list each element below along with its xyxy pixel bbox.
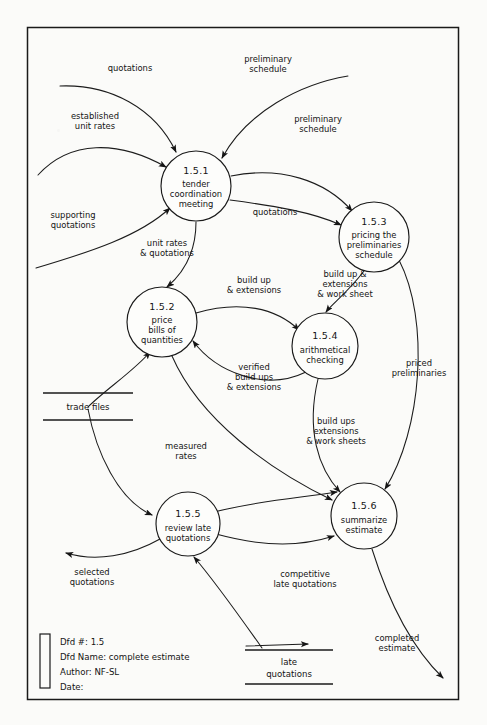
process-id: 1.5.3 (361, 216, 387, 227)
process-name-line2: checking (306, 355, 343, 365)
flow-label-line2: quotations (70, 577, 115, 587)
data-store-trade-files[interactable]: trade files (43, 393, 133, 420)
flow-label-line1: unit rates (147, 238, 187, 248)
process-name-line1: tender (182, 179, 210, 189)
flow-label-selected-quotations: selected quotations (70, 567, 115, 587)
flow-line-completed-estimate (372, 549, 443, 678)
title-block-line-3: Author: NF-SL (60, 667, 119, 677)
flow-line-trade-files-to-152 (88, 352, 150, 407)
flow-label-line2: & extensions (227, 285, 281, 295)
flow-line-preliminary-schedule-to-153 (231, 173, 352, 211)
data-store-late-quotations[interactable]: late quotations (245, 650, 333, 684)
flow-label-priced-preliminaries: priced preliminaries (392, 358, 447, 378)
title-block-marker (40, 634, 50, 688)
flow-line-selected-quotations (66, 539, 160, 557)
flow-label-line1: measured (165, 441, 207, 451)
flow-label-line3: & work sheets (306, 436, 366, 446)
flow-label-line1: build ups (317, 416, 355, 426)
flow-label-line2: & quotations (140, 248, 194, 258)
flow-label-line1: preliminary (244, 54, 292, 64)
flow-label-line2: extensions (313, 426, 358, 436)
process-name-line1: review late (165, 523, 211, 533)
data-store-label-line1: late (281, 657, 297, 667)
flow-label-line1: verified (238, 362, 270, 372)
process-id: 1.5.2 (149, 301, 175, 312)
process-name-line1: arithmetical (300, 345, 350, 355)
flow-label-supporting-quotations: supporting quotations (50, 210, 95, 230)
process-name-line3: schedule (355, 250, 393, 260)
flow-line-store-late-quotations-feed (246, 644, 308, 646)
flow-label-verified-build-ups: verified build ups & extensions (227, 362, 281, 392)
data-store-label: trade files (66, 402, 110, 412)
flow-line-trade-files-to-155 (88, 409, 152, 515)
process-name-line1: pricing the (351, 230, 396, 240)
flow-label-line2: schedule (299, 124, 337, 134)
flow-line-155-to-156-upper (214, 492, 337, 512)
process-node-1-5-3[interactable]: 1.5.3 pricing the preliminaries schedule (339, 202, 409, 272)
title-block-line-4: Date: (60, 682, 83, 692)
flow-label-line2: build ups (235, 372, 273, 382)
process-node-1-5-1[interactable]: 1.5.1 tender coordination meeting (161, 151, 231, 221)
flow-label-line2: estimate (379, 643, 416, 653)
diagram-canvas: trade files late quotations 1.5.1 tender… (0, 0, 487, 725)
data-store-label-line2: quotations (266, 669, 312, 679)
process-node-1-5-6[interactable]: 1.5.6 summarize estimate (331, 483, 397, 549)
flow-label-line2: unit rates (75, 121, 115, 131)
flow-label-build-up-worksheet: build up & extensions & work sheet (317, 269, 373, 299)
flow-label-line1: quotations (253, 207, 298, 217)
flow-label-line1: established (71, 111, 119, 121)
flow-label-line1: preliminary (294, 114, 342, 124)
flow-label-line1: competitive (280, 569, 330, 579)
flow-label-completed-estimate: completed estimate (375, 633, 419, 653)
flow-line-established-unit-rates (38, 148, 166, 175)
process-name-line2: preliminaries (347, 240, 402, 250)
flow-line-build-up-extensions (196, 307, 299, 330)
process-name-line1: price (152, 315, 173, 325)
flow-label-measured-rates: measured rates (165, 441, 207, 461)
process-id: 1.5.4 (312, 330, 338, 341)
flow-label-line2: late quotations (273, 579, 336, 589)
title-block-line-2: Dfd Name: complete estimate (60, 652, 190, 662)
process-name-line2: estimate (346, 525, 383, 535)
flow-label-unit-rates-quotations: unit rates & quotations (140, 238, 194, 258)
process-node-1-5-4[interactable]: 1.5.4 arithmetical checking (292, 313, 358, 379)
title-block-line-1: Dfd #: 1.5 (60, 637, 104, 647)
flow-label-line3: & work sheet (317, 289, 373, 299)
flow-label-preliminary-schedule-mid: preliminary schedule (294, 114, 342, 134)
flow-label-line1: selected (74, 567, 109, 577)
flow-label-line2: rates (175, 451, 196, 461)
flow-label-line1: build up & (323, 269, 367, 279)
flow-label-line1: completed (375, 633, 419, 643)
process-name-line2: quotations (166, 533, 211, 543)
flow-label-line2: preliminaries (392, 368, 447, 378)
process-id: 1.5.5 (175, 508, 201, 519)
flow-line-late-quotations-to-155 (194, 557, 262, 648)
flow-label-line1: priced (406, 358, 432, 368)
title-block[interactable]: Dfd #: 1.5 Dfd Name: complete estimate A… (40, 634, 190, 692)
flow-label-line1: supporting (50, 210, 95, 220)
flow-labels-group: quotations preliminary schedule establis… (50, 54, 446, 653)
flow-label-competitive-late-quotations: competitive late quotations (273, 569, 336, 589)
flow-label-line2: quotations (51, 220, 96, 230)
flow-label-build-up-extensions: build up & extensions (227, 275, 281, 295)
process-name-line3: meeting (179, 199, 214, 209)
process-id: 1.5.6 (351, 500, 377, 511)
process-node-1-5-5[interactable]: 1.5.5 review late quotations (156, 492, 220, 556)
flow-line-competitive-late-quotations (216, 534, 334, 544)
process-name-line1: summarize (341, 515, 387, 525)
flow-label-line2: extensions (322, 279, 367, 289)
flow-label-line2: schedule (249, 64, 287, 74)
flow-label-established-unit-rates: established unit rates (71, 111, 119, 131)
flow-label-line1: quotations (108, 63, 153, 73)
flow-label-quotations-top: quotations (108, 63, 153, 73)
flow-label-build-ups-worksheets: build ups extensions & work sheets (306, 416, 366, 446)
flow-label-quotations-mid: quotations (253, 207, 298, 217)
process-name-line2: coordination (170, 189, 222, 199)
process-id: 1.5.1 (183, 165, 209, 176)
process-name-line2: bills of (148, 325, 176, 335)
process-name-line3: quantities (141, 335, 183, 345)
flow-label-line3: & extensions (227, 382, 281, 392)
flow-label-line1: build up (237, 275, 271, 285)
data-flow-diagram: trade files late quotations 1.5.1 tender… (0, 0, 487, 725)
process-node-1-5-2[interactable]: 1.5.2 price bills of quantities (127, 287, 197, 357)
